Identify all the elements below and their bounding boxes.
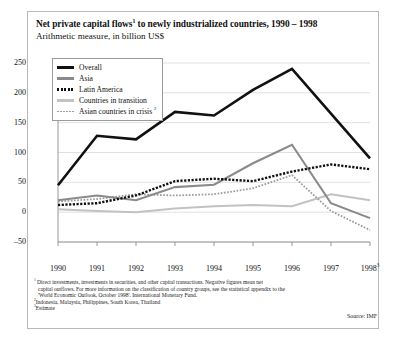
x-axis-tick-label: 19983 [352, 264, 388, 273]
footnote-1-line-1: Direct investments, investments in secur… [37, 279, 263, 285]
y-axis-tick-label: 150 [0, 118, 26, 127]
legend-footnote-marker: 2 [154, 106, 156, 111]
chart-subtitle: Arithmetic measure, in billion US$ [36, 31, 376, 41]
footnote-1: 1 Direct investments, investments in sec… [34, 279, 374, 286]
chart-title-main: Net private capital flows [36, 19, 132, 29]
y-axis-tick-label: –50 [0, 237, 26, 246]
footnote-2-text: Indonesia, Malaysia, Philippines, South … [36, 299, 160, 305]
chart-title: Net private capital flows1 to newly indu… [36, 19, 376, 29]
legend-item-countries-in-transition[interactable]: Countries in transition [57, 95, 156, 106]
x-axis-tick-label: 1995 [235, 264, 271, 273]
legend-item-overall[interactable]: Overall [57, 62, 156, 73]
footnote-1-line-3-row: 'World Economic Outlook, October 1998'. … [34, 292, 374, 299]
legend-swatch-asia-icon [57, 74, 74, 83]
legend-item-asia[interactable]: Asia [57, 73, 156, 84]
x-axis-tick-label: 1996 [274, 264, 310, 273]
y-axis-tick-label: 50 [0, 177, 26, 186]
y-axis-tick-label: 200 [0, 88, 26, 97]
legend-label-asia: Asia [79, 74, 93, 83]
chart-source: Source: IMF [347, 313, 377, 319]
legend-label-overall: Overall [79, 63, 102, 72]
chart-figure: Net private capital flows1 to newly indu… [0, 0, 401, 343]
footnote-1-marker: 1 [34, 278, 36, 282]
legend-swatch-latin-america-icon [57, 85, 74, 94]
chart-footnotes: 1 Direct investments, investments in sec… [34, 279, 374, 312]
legend-label-countries-in-transition: Countries in transition [79, 96, 147, 105]
chart-title-rest: to newly industrialized countries, 1990 … [135, 19, 317, 29]
footnote-2: 2Indonesia, Malaysia, Philippines, South… [34, 299, 374, 306]
legend-swatch-asian-countries-in-crisis-icon [57, 107, 74, 116]
x-axis-tick-label: 1990 [40, 264, 76, 273]
legend-label-latin-america: Latin America [79, 85, 123, 94]
legend-swatch-overall-icon [57, 63, 74, 72]
x-axis-tick-label: 1997 [313, 264, 349, 273]
footnote-1-line-3: 'World Economic Outlook, October 1998'. … [38, 292, 197, 298]
x-axis-tick-label: 1992 [118, 264, 154, 273]
legend-item-latin-america[interactable]: Latin America [57, 84, 156, 95]
x-axis-tick-footnote-marker: 3 [377, 263, 380, 268]
y-axis-tick-label: 100 [0, 148, 26, 157]
footnote-1-line-2-row: capital outflows. For more information o… [34, 286, 374, 293]
series-line-asian-countries-in-crisis [58, 175, 370, 230]
footnote-3: 3Estimate [34, 305, 374, 312]
x-axis-tick-label: 1994 [196, 264, 232, 273]
legend-label-asian-countries-in-crisis: Asian countries in crisis 2 [79, 107, 156, 116]
x-axis-tick-label: 1991 [79, 264, 115, 273]
footnote-1-line-2: capital outflows. For more information o… [38, 286, 285, 292]
x-axis-tick-label: 1993 [157, 264, 193, 273]
y-axis-tick-label: 250 [0, 58, 26, 67]
footnote-3-text: Estimate [36, 305, 55, 311]
legend-swatch-countries-in-transition-icon [57, 96, 74, 105]
chart-legend: Overall Asia Latin America Countries in … [52, 58, 163, 121]
legend-item-asian-countries-in-crisis[interactable]: Asian countries in crisis 2 [57, 106, 156, 117]
y-axis-tick-label: 0 [0, 207, 26, 216]
